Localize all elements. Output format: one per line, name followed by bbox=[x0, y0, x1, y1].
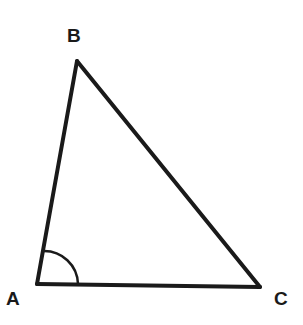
side-bc bbox=[77, 61, 260, 287]
side-ac bbox=[37, 284, 260, 287]
vertex-label-c: C bbox=[274, 289, 288, 308]
vertex-label-a: A bbox=[6, 289, 20, 308]
triangle-diagram bbox=[0, 0, 303, 325]
vertex-label-b: B bbox=[67, 26, 81, 45]
triangle-abc bbox=[37, 61, 260, 287]
angle-a-arc bbox=[43, 251, 78, 284]
